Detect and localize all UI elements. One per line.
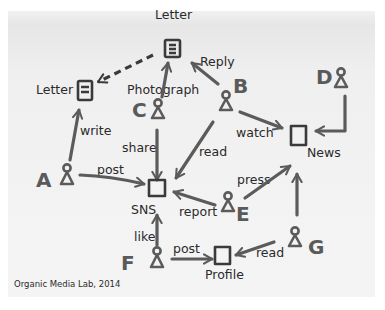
media-network-diagram: Letter Letter Photograph C Reply B watch…: [0, 0, 385, 310]
actor-a-person-icon: [61, 164, 73, 184]
write-label: write: [80, 123, 112, 138]
actor-b-person-icon: [220, 91, 232, 110]
sns-label: SNS: [131, 202, 156, 217]
actor-a-letter: A: [36, 168, 52, 192]
like-label: like: [134, 229, 156, 244]
actor-e-person-icon: [222, 192, 234, 211]
a-post-arrow: [80, 175, 144, 184]
f-post-label: post: [173, 241, 200, 256]
d-read-news-arrow: [316, 96, 345, 131]
news-icon: [291, 126, 306, 145]
actor-d-person-icon: [335, 68, 347, 87]
caption: Organic Media Lab, 2014: [14, 279, 120, 289]
letter-left-icon: [78, 81, 92, 100]
watch-label: watch: [236, 125, 274, 140]
forward-dashed-arrow: [98, 55, 153, 82]
b-read-label: read: [199, 144, 227, 159]
reply-label: Reply: [200, 54, 235, 69]
actor-d-letter: D: [316, 65, 333, 89]
sns-icon: [149, 180, 165, 196]
letter-left-label: Letter: [36, 82, 74, 97]
letter-top-label: Letter: [155, 7, 193, 22]
actor-f-person-icon: [151, 247, 163, 267]
actor-b-letter: B: [233, 74, 248, 98]
share-label: share: [122, 140, 157, 155]
report-label: report: [179, 204, 217, 219]
a-write-arrow: [70, 110, 79, 160]
news-label: News: [307, 145, 341, 160]
actor-g-person-icon: [289, 227, 301, 246]
letter-top-icon: [165, 40, 180, 57]
actor-g-letter: G: [308, 235, 324, 259]
profile-icon: [215, 247, 230, 264]
actor-c-letter: C: [132, 98, 147, 122]
profile-label: Profile: [205, 267, 244, 282]
actor-c-person-icon: [152, 99, 164, 118]
a-post-label: post: [97, 162, 124, 177]
actor-f-letter: F: [121, 251, 135, 275]
actor-e-letter: E: [236, 202, 250, 226]
